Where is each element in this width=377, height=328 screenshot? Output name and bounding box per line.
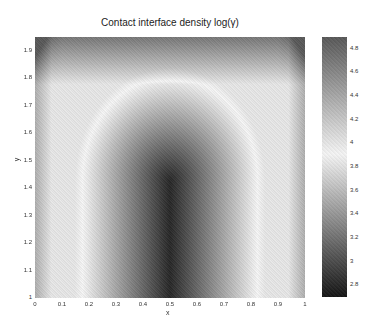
colorbar-tick-label: 3.4 <box>350 210 358 216</box>
colorbar-tick-label: 3.8 <box>350 163 358 169</box>
chart-title: Contact interface density log(γ) <box>35 17 305 28</box>
x-tick-label: 0.1 <box>52 301 72 307</box>
y-tick-label: 1.1 <box>12 267 32 273</box>
x-tick-label: 0 <box>25 301 45 307</box>
y-tick-label: 1 <box>12 294 32 300</box>
y-tick-label: 1.9 <box>12 47 32 53</box>
colorbar <box>322 37 347 297</box>
colorbar-tick-label: 3.2 <box>350 234 358 240</box>
x-tick-label: 0.6 <box>187 301 207 307</box>
y-tick-label: 1.2 <box>12 239 32 245</box>
y-tick-label: 1.6 <box>12 129 32 135</box>
colorbar-tick-label: 4.6 <box>350 68 358 74</box>
heatmap-plot-area <box>35 37 305 298</box>
x-axis-label: x <box>166 309 170 316</box>
colorbar-canvas <box>322 37 347 297</box>
x-tick-label: 0.7 <box>214 301 234 307</box>
colorbar-tick-label: 3 <box>350 258 353 264</box>
colorbar-tick-label: 4.4 <box>350 92 358 98</box>
x-tick-label: 1 <box>295 301 315 307</box>
colorbar-tick-label: 3.6 <box>350 187 358 193</box>
y-tick-label: 1.4 <box>12 184 32 190</box>
colorbar-tick-label: 4 <box>350 139 353 145</box>
x-tick-label: 0.9 <box>268 301 288 307</box>
x-tick-label: 0.4 <box>133 301 153 307</box>
colorbar-tick-label: 4.8 <box>350 45 358 51</box>
colorbar-tick-label: 4.2 <box>350 116 358 122</box>
x-tick-label: 0.3 <box>106 301 126 307</box>
y-tick-label: 1.7 <box>12 102 32 108</box>
y-tick-label: 1.3 <box>12 212 32 218</box>
y-tick-label: 1.8 <box>12 74 32 80</box>
y-axis-label: y <box>13 158 20 162</box>
x-tick-label: 0.5 <box>160 301 180 307</box>
colorbar-tick-label: 2.8 <box>350 281 358 287</box>
heatmap-canvas <box>35 37 305 298</box>
x-tick-label: 0.2 <box>79 301 99 307</box>
x-tick-label: 0.8 <box>241 301 261 307</box>
